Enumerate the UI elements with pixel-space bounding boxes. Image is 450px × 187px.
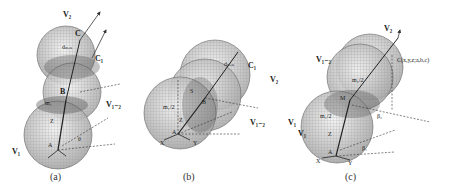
label-m2-half-c: m₂/2	[352, 77, 363, 83]
label-c-c: C(x,y,z;a,b,c)	[397, 57, 429, 63]
label-v2-b: V₂	[270, 76, 278, 84]
label-c-a: C	[75, 30, 81, 38]
label-theta-a: θ	[78, 136, 81, 142]
label-v1-a: V₁	[12, 148, 20, 156]
label-c1-a: C₁	[95, 55, 103, 63]
label-y-b: Y	[193, 140, 197, 146]
label-m1-half-c: m₁/2	[320, 113, 331, 119]
label-v1-b: V₁	[288, 119, 296, 127]
panel-a-diagram	[24, 12, 120, 169]
label-v1-c: V₁	[298, 130, 306, 138]
label-z-a: Z	[50, 118, 54, 124]
label-x-b: X	[160, 140, 164, 146]
label-v2-a: V₂	[63, 11, 71, 19]
label-y-c: Y	[348, 160, 352, 166]
label-a-b: A	[172, 129, 176, 135]
label-beta2-c: β₂	[377, 113, 382, 119]
label-v1-2-c: V₁₋₂	[316, 56, 331, 64]
label-b-b: B	[202, 99, 206, 105]
label-c1-b: C₁	[248, 62, 256, 70]
sphere-overlap-figure: V₂ C dₘᵢₙ C₁ B m₁ V₁₋₂ Z A θ V₁ (a) dₘᵢₙ…	[0, 0, 450, 187]
label-a-a: A	[48, 142, 52, 148]
label-b-a: B	[60, 88, 65, 96]
label-z-c: Z	[328, 131, 332, 137]
caption-a: (a)	[50, 172, 61, 182]
label-dmin-a: dₘᵢₙ	[62, 44, 72, 50]
label-s-b: S	[190, 88, 193, 94]
label-x-c: X	[316, 158, 320, 164]
caption-c: (c)	[345, 172, 356, 182]
label-v1-2-a: V₁₋₂	[106, 101, 121, 109]
label-m1-a: m₁	[45, 100, 52, 106]
panel-b-diagram	[144, 40, 258, 149]
label-v2-c: V₂	[384, 25, 392, 33]
panel-c-diagram	[301, 30, 430, 163]
label-dmin-b: dₘᵢₙ	[224, 61, 234, 67]
label-z-b: Z	[179, 117, 183, 123]
label-m-half-b: m₁/2	[163, 104, 174, 110]
label-a-c: A	[328, 149, 332, 155]
caption-b: (b)	[183, 172, 195, 182]
label-v1-2-b: V₁₋₂	[250, 119, 265, 127]
label-m-c: M	[340, 95, 345, 101]
label-beta1-c: β₁	[362, 145, 367, 151]
figure-graphics	[0, 0, 450, 187]
